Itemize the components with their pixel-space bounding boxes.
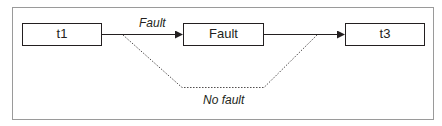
edge-no-fault-label: No fault bbox=[203, 93, 244, 107]
node-t3-label: t3 bbox=[345, 26, 425, 41]
edge-fault-label: Fault bbox=[139, 16, 166, 30]
node-fault-label: Fault bbox=[183, 26, 264, 41]
node-t1-label: t1 bbox=[22, 26, 102, 41]
diagram-canvas bbox=[0, 0, 442, 126]
